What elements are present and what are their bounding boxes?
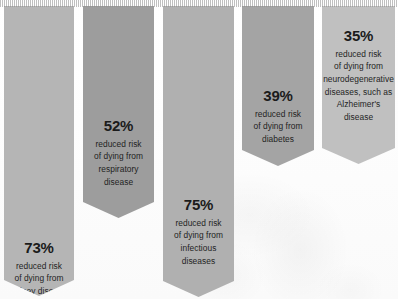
bar-content: 73% reduced risk of dying from kidney di… <box>4 240 74 298</box>
bar-description: reduced risk of dying from diabetes <box>250 108 305 146</box>
bar-description: reduced risk of dying from kidney diseas… <box>8 260 70 298</box>
bar-description-line: of dying from <box>11 272 67 285</box>
bar-description-line: reduced risk <box>94 138 143 151</box>
bar-description: reduced risk of dying from neurodegenera… <box>320 48 397 124</box>
bar-content: 52% reduced risk of dying from respirato… <box>83 118 154 188</box>
bar-description-line: reduced risk <box>11 260 67 273</box>
bar-description-line: reduced risk <box>253 108 302 121</box>
bar-percentage: 39% <box>263 88 292 104</box>
bar-description-line: diseases <box>174 255 223 268</box>
bar-kidney-disease: 73% reduced risk of dying from kidney di… <box>4 6 74 296</box>
bar-description-line: of dying from <box>174 229 223 242</box>
bar-description-line: disease <box>94 176 143 189</box>
bar-description-line: Alzheimer's <box>323 98 394 111</box>
bar-description: reduced risk of dying from infectious di… <box>171 217 226 267</box>
infographic-canvas: 73% reduced risk of dying from kidney di… <box>0 0 398 299</box>
bar-description-line: neurodegenerative <box>323 73 394 86</box>
bar-content: 39% reduced risk of dying from diabetes <box>242 88 314 146</box>
bar-description-line: diabetes <box>253 133 302 146</box>
bar-description-line: of dying from <box>94 150 143 163</box>
bar-percentage: 52% <box>104 118 133 134</box>
bar-description-line: kidney disease <box>11 285 67 298</box>
bar-infectious-diseases: 75% reduced risk of dying from infectiou… <box>163 6 234 297</box>
bar-description-line: diseases, such as <box>323 86 394 99</box>
bar-neurodegenerative-diseases: 35% reduced risk of dying from neurodege… <box>322 6 395 164</box>
bar-description-line: respiratory <box>94 163 143 176</box>
bar-description-line: infectious <box>174 242 223 255</box>
bar-respiratory-disease: 52% reduced risk of dying from respirato… <box>83 6 154 218</box>
bar-diabetes: 39% reduced risk of dying from diabetes <box>242 6 314 166</box>
bar-description: reduced risk of dying from respiratory d… <box>91 138 146 188</box>
bar-description-line: of dying from <box>323 60 394 73</box>
bar-percentage: 35% <box>344 28 373 44</box>
bar-description-line: of dying from <box>253 120 302 133</box>
bar-percentage: 75% <box>184 197 213 213</box>
bar-group: 73% reduced risk of dying from kidney di… <box>0 0 398 299</box>
bar-description-line: reduced risk <box>174 217 223 230</box>
bar-percentage: 73% <box>24 240 53 256</box>
bar-description-line: disease <box>323 111 394 124</box>
bar-content: 35% reduced risk of dying from neurodege… <box>322 28 395 123</box>
bar-content: 75% reduced risk of dying from infectiou… <box>163 197 234 267</box>
bar-description-line: reduced risk <box>323 48 394 61</box>
